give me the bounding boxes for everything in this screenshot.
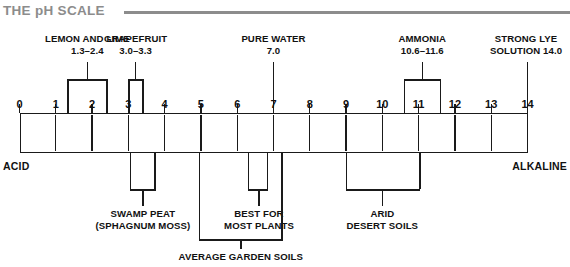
label-line-2: 7.0: [241, 45, 305, 57]
bracket-left-leg-best-for-most-plants: [248, 153, 250, 190]
scale-number-2: 2: [89, 98, 95, 110]
scale-number-4: 4: [162, 98, 168, 110]
ph-scale-diagram: THE pH SCALE LEMON AND LIME1.3–2.4GRAPEF…: [0, 0, 570, 267]
bracket-stem-best-for-most-plants: [258, 189, 260, 206]
annotation-label-best-for-most-plants: BEST FORMOST PLANTS: [224, 208, 294, 231]
annotation-label-ammonia: AMMONIA10.6–11.6: [398, 33, 446, 56]
label-line-2: 10.6–11.6: [398, 45, 446, 57]
alkaline-label: ALKALINE: [512, 160, 567, 172]
scale-division-tick: [309, 115, 310, 151]
bracket-right-leg-grapefruit: [142, 79, 144, 113]
bracket-top-ammonia: [404, 79, 441, 81]
scale-number-13: 13: [485, 98, 497, 110]
scale-number-9: 9: [343, 98, 349, 110]
title-bar: THE pH SCALE: [0, 0, 570, 22]
label-line-2: 3.0–3.3: [104, 45, 167, 57]
annotation-label-pure-water: PURE WATER7.0: [241, 33, 305, 56]
label-line-1: SWAMP PEAT: [95, 208, 190, 220]
scale-number-0: 0: [16, 98, 22, 110]
bracket-stem-lemon-and-lime: [87, 62, 89, 79]
scale-number-12: 12: [449, 98, 461, 110]
scale-division-tick: [418, 115, 419, 151]
annotation-label-average-garden-soils: AVERAGE GARDEN SOILS: [179, 251, 303, 263]
label-line-1: AVERAGE GARDEN SOILS: [179, 251, 303, 263]
bracket-right-leg-swamp-peat: [154, 153, 156, 190]
bracket-left-leg-swamp-peat: [130, 153, 132, 190]
scale-division-tick: [454, 115, 455, 151]
scale-division-tick: [164, 115, 165, 151]
scale-division-tick: [128, 115, 129, 151]
scale-division-tick: [55, 115, 56, 151]
scale-division-tick: [200, 115, 201, 151]
label-line-2: MOST PLANTS: [224, 220, 294, 232]
bracket-stem-average-garden-soils: [240, 239, 242, 249]
label-line-2: DESERT SOILS: [347, 220, 419, 232]
bracket-right-leg-average-garden-soils: [281, 153, 283, 240]
bracket-stem-ammonia: [422, 62, 424, 79]
bracket-stem-swamp-peat: [142, 189, 144, 206]
annotation-label-grapefruit: GRAPEFRUIT3.0–3.3: [104, 33, 167, 56]
label-line-1: AMMONIA: [398, 33, 446, 45]
bracket-right-leg-arid-desert-soils: [419, 153, 421, 190]
scale-number-10: 10: [376, 98, 388, 110]
scale-division-tick: [382, 115, 383, 151]
scale-division-tick: [345, 115, 346, 151]
scale-number-1: 1: [53, 98, 59, 110]
bracket-right-leg-lemon-and-lime: [106, 79, 108, 113]
label-line-1: STRONG LYE: [490, 33, 562, 45]
annotation-label-strong-lye-solution: STRONG LYESOLUTION 14.0: [490, 33, 562, 56]
label-line-1: ARID: [347, 208, 419, 220]
bracket-left-leg-lemon-and-lime: [67, 79, 69, 113]
scale-number-8: 8: [307, 98, 313, 110]
label-line-1: GRAPEFRUIT: [104, 33, 167, 45]
bracket-stem-arid-desert-soils: [382, 189, 384, 206]
bracket-right-leg-ammonia: [440, 79, 442, 113]
scale-division-tick: [491, 115, 492, 151]
scale-number-6: 6: [234, 98, 240, 110]
label-line-2: (SPHAGNUM MOSS): [95, 220, 190, 232]
scale-number-14: 14: [521, 98, 533, 110]
scale-division-tick: [237, 115, 238, 151]
bracket-left-leg-ammonia: [404, 79, 406, 113]
scale-number-3: 3: [125, 98, 131, 110]
bracket-stem-grapefruit: [135, 62, 137, 79]
scale-division-tick: [91, 115, 92, 151]
annotation-label-arid-desert-soils: ARIDDESERT SOILS: [347, 208, 419, 231]
bracket-left-leg-arid-desert-soils: [346, 153, 348, 190]
acid-label: ACID: [3, 160, 29, 172]
scale-number-5: 5: [198, 98, 204, 110]
annotation-label-swamp-peat: SWAMP PEAT(SPHAGNUM MOSS): [95, 208, 190, 231]
bracket-right-leg-best-for-most-plants: [267, 153, 269, 190]
bracket-bottom-arid-desert-soils: [346, 189, 420, 191]
scale-number-11: 11: [413, 98, 425, 110]
page-title: THE pH SCALE: [3, 3, 105, 18]
bracket-left-leg-average-garden-soils: [199, 153, 201, 240]
title-rule: [124, 11, 570, 14]
label-line-1: BEST FOR: [224, 208, 294, 220]
scale-number-7: 7: [270, 98, 276, 110]
scale-division-tick: [273, 115, 274, 151]
bracket-top-lemon-and-lime: [67, 79, 107, 81]
label-line-1: PURE WATER: [241, 33, 305, 45]
bracket-top-grapefruit: [128, 79, 143, 81]
label-line-2: SOLUTION 14.0: [490, 45, 562, 57]
